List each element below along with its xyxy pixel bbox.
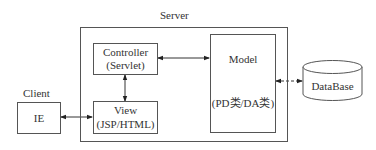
view-node: View (JSP/HTML) bbox=[93, 101, 158, 134]
controller-subtitle: (Servlet) bbox=[94, 59, 157, 72]
model-subtitle: (PD类/DA类) bbox=[211, 97, 275, 110]
ie-node: IE bbox=[17, 102, 61, 134]
controller-title: Controller bbox=[94, 46, 157, 59]
controller-node: Controller (Servlet) bbox=[93, 43, 158, 75]
server-label: Server bbox=[160, 9, 189, 22]
ie-label: IE bbox=[18, 112, 60, 125]
view-subtitle: (JSP/HTML) bbox=[94, 118, 157, 131]
model-title: Model bbox=[211, 53, 275, 66]
view-title: View bbox=[94, 104, 157, 117]
database-label: DataBase bbox=[303, 80, 362, 93]
client-label: Client bbox=[23, 87, 50, 100]
model-node: Model (PD类/DA类) bbox=[210, 34, 276, 133]
